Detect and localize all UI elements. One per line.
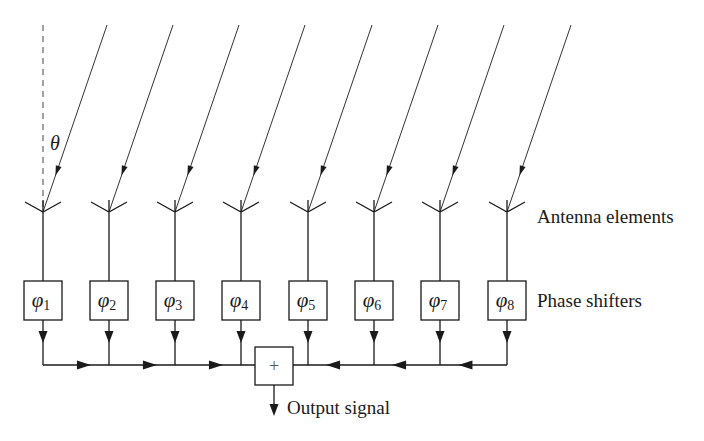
- phase-shifter-8: φ8: [488, 281, 526, 320]
- antenna-elements-label: Antenna elements: [537, 206, 674, 227]
- arrow-down-icon: [304, 331, 313, 343]
- arrow-down-icon: [171, 331, 180, 343]
- arrow-down-icon: [237, 331, 246, 343]
- phase-shifter-7: φ7: [421, 281, 459, 320]
- ray-arrow-icon: [121, 165, 127, 175]
- phase-shifter-5: φ5: [289, 281, 327, 320]
- phased-array-diagram: θ φ1φ2φ3φ4φ5φ6φ7φ8 + Antenna elements Ph…: [0, 0, 704, 441]
- arrow-right-icon: [143, 361, 157, 370]
- phase-shifter-6: φ6: [355, 281, 393, 320]
- ray-arrow-icon: [320, 165, 326, 175]
- ray-arrow-icon: [519, 165, 525, 175]
- antenna-icon: [223, 200, 259, 281]
- ray-arrow-icon: [55, 165, 61, 175]
- incident-ray-3: [175, 25, 239, 212]
- ray-arrow-icon: [452, 165, 458, 175]
- incident-ray-7: [440, 25, 504, 212]
- arrow-left-icon: [326, 361, 340, 370]
- antenna-icon: [91, 200, 127, 281]
- phase-shifter-2: φ2: [90, 281, 128, 320]
- arrow-down-icon: [503, 331, 512, 343]
- incident-ray-6: [374, 25, 438, 212]
- ray-arrow-icon: [187, 165, 193, 175]
- antenna-icon: [25, 200, 61, 281]
- feed-line-8: [503, 320, 512, 365]
- feed-line-6: [370, 320, 379, 365]
- arrow-left-icon: [458, 361, 472, 370]
- incident-ray-5: [308, 25, 372, 212]
- feed-line-4: [237, 320, 246, 365]
- output-signal-label: Output signal: [287, 397, 390, 418]
- feed-line-1: [39, 320, 48, 365]
- incident-ray-1: [43, 25, 107, 212]
- incident-ray-2: [109, 25, 173, 212]
- phase-shifters-label: Phase shifters: [537, 290, 642, 311]
- arrow-down-icon: [270, 404, 279, 416]
- antenna-icon: [422, 200, 458, 281]
- phase-shifter-1: φ1: [24, 281, 62, 320]
- arrow-right-icon: [209, 361, 223, 370]
- phase-shifters: φ1φ2φ3φ4φ5φ6φ7φ8: [24, 281, 526, 320]
- antenna-icon: [356, 200, 392, 281]
- antenna-icon: [157, 200, 193, 281]
- incident-wave-rays: [43, 25, 571, 212]
- ray-arrow-icon: [253, 165, 259, 175]
- antenna-icon: [290, 200, 326, 281]
- arrow-down-icon: [39, 331, 48, 343]
- incident-ray-8: [507, 25, 571, 212]
- antenna-icon: [489, 200, 525, 281]
- antenna-elements: [25, 200, 525, 281]
- feed-line-5: [304, 320, 313, 365]
- feed-line-7: [436, 320, 445, 365]
- feed-line-3: [171, 320, 180, 365]
- ray-arrow-icon: [386, 165, 392, 175]
- arrow-right-icon: [77, 361, 91, 370]
- arrow-left-icon: [392, 361, 406, 370]
- arrow-down-icon: [370, 331, 379, 343]
- summer-block: +: [255, 347, 293, 385]
- feed-line-2: [105, 320, 114, 365]
- incident-ray-4: [241, 25, 305, 212]
- theta-label: θ: [50, 132, 60, 154]
- arrow-down-icon: [436, 331, 445, 343]
- phase-shifter-3: φ3: [156, 281, 194, 320]
- output-arrow: [270, 385, 279, 416]
- plus-icon: +: [269, 356, 279, 376]
- phase-shifter-4: φ4: [222, 281, 260, 320]
- arrow-down-icon: [105, 331, 114, 343]
